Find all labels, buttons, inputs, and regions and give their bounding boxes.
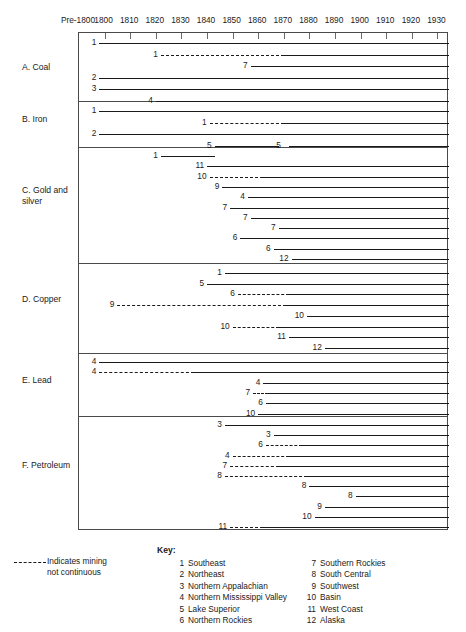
bar-segment-solid (99, 43, 449, 44)
chart-page: Pre-180018001810182018301840185018601870… (0, 0, 466, 632)
bar-segment-dashed (225, 476, 307, 477)
region-number-label: 8 (217, 470, 225, 480)
timeline-bar-row[interactable]: 12 (79, 254, 449, 264)
timeline-bar-row[interactable]: 9 (79, 300, 449, 310)
timeline-bar-row[interactable]: 7 (79, 213, 449, 223)
region-number-label: 7 (271, 222, 279, 232)
timeline-bar-row[interactable]: 8 (79, 471, 449, 481)
bar-segment-solid (99, 362, 449, 363)
timeline-bar-row[interactable]: 7 (79, 223, 449, 233)
axis-tick-label: 1810 (120, 15, 138, 26)
axis-tick-label: 1820 (146, 15, 164, 26)
timeline-bar-row[interactable]: 2 (79, 73, 449, 83)
timeline-bar-row[interactable]: 4 (79, 192, 449, 202)
timeline-bar-row[interactable]: 55 (79, 141, 449, 151)
timeline-bar-row[interactable]: 3 (79, 420, 449, 430)
key-item-label: West Coast (320, 604, 363, 614)
key-item-label: Lake Superior (188, 604, 240, 614)
timeline-bar-row[interactable]: 4 (79, 367, 449, 377)
timeline-bar-row[interactable]: 6 (79, 289, 449, 299)
timeline-bar-row[interactable]: 6 (79, 233, 449, 243)
bar-segment-solid (315, 517, 449, 518)
key-item-number: 6 (171, 615, 184, 626)
region-number-label: 5 (207, 140, 215, 150)
timeline-bar-row[interactable]: 8 (79, 481, 449, 491)
timeline-bar-row[interactable]: 10 (79, 322, 449, 332)
timeline-bar-row[interactable]: 3 (79, 84, 449, 94)
timeline-bar-row[interactable]: 9 (79, 502, 449, 512)
timeline-bar-row[interactable]: 5 (79, 279, 449, 289)
timeline-bar-row[interactable]: 8 (79, 491, 449, 501)
timeline-bar-row[interactable]: 7 (79, 203, 449, 213)
timeline-bar-row[interactable]: 12 (79, 343, 449, 353)
bar-segment-solid (222, 187, 449, 188)
timeline-bar-row[interactable]: 11 (79, 332, 449, 342)
timeline-bar-row[interactable]: 11 (79, 161, 449, 171)
axis-tick-label: 1840 (197, 15, 215, 26)
timeline-bar-row[interactable]: 1 (79, 151, 449, 161)
region-number-label: 6 (258, 397, 266, 407)
timeline-bar-row[interactable]: 4 (79, 96, 449, 106)
region-number-label: 12 (279, 253, 291, 263)
bar-segment-solid (289, 337, 449, 338)
timeline-bar-row[interactable]: 10 (79, 512, 449, 522)
timeline-bar-row[interactable]: 11 (79, 522, 449, 532)
timeline-bar-row[interactable]: 7 (79, 61, 449, 71)
bar-segment-solid (207, 284, 449, 285)
bar-segment-solid (194, 372, 449, 373)
region-number-label: 7 (222, 202, 230, 212)
key-item: 12Alaska (303, 615, 386, 626)
bar-segment-solid (215, 146, 279, 147)
region-number-label: 4 (256, 377, 264, 387)
bar-segment-solid (230, 208, 449, 209)
timeline-bar-row[interactable]: 4 (79, 357, 449, 367)
key-item: 4Northern Mississippi Valley (171, 592, 287, 603)
timeline-bar-row[interactable]: 4 (79, 451, 449, 461)
key-item-label: Southern Rockies (320, 558, 386, 568)
bar-segment-solid (302, 445, 449, 446)
region-number-label: 4 (92, 366, 100, 376)
bar-segment-dashed (161, 55, 284, 56)
timeline-bar-row[interactable]: 4 (79, 378, 449, 388)
bar-segment-solid (225, 273, 449, 274)
key-item-label: Alaska (320, 615, 345, 625)
bar-segment-solid (307, 316, 449, 317)
timeline-bar-row[interactable]: 6 (79, 398, 449, 408)
timeline-bar-row[interactable]: 9 (79, 182, 449, 192)
timeline-bar-row[interactable]: 6 (79, 244, 449, 254)
bar-segment-dashed (233, 327, 279, 328)
timeline-bar-row[interactable]: 1 (79, 38, 449, 48)
bar-segment-solid (248, 197, 449, 198)
timeline-bar-row[interactable]: 2 (79, 129, 449, 139)
key-item-number: 12 (303, 615, 316, 626)
region-number-label: 12 (313, 342, 325, 352)
key-title: Key: (157, 545, 457, 556)
timeline-bar-row[interactable]: 10 (79, 172, 449, 182)
key-item: 7Southern Rockies (303, 558, 386, 569)
timeline-bar-row[interactable]: 1 (79, 268, 449, 278)
key-item-number: 9 (303, 581, 316, 592)
bar-segment-solid (266, 403, 449, 404)
region-number-label: 3 (266, 429, 274, 439)
region-number-label: 10 (246, 408, 258, 418)
region-number-label: 6 (233, 232, 241, 242)
timeline-bar-row[interactable]: 7 (79, 461, 449, 471)
timeline-bar-row[interactable]: 6 (79, 440, 449, 450)
bar-segment-dashed (253, 393, 268, 394)
not-continuous-note-text: Indicates mining not continuous (47, 556, 107, 577)
bar-segment-solid (289, 146, 449, 147)
timeline-bar-row[interactable]: 10 (79, 409, 449, 419)
timeline-bar-row[interactable]: 1 (79, 118, 449, 128)
bar-segment-solid (263, 383, 449, 384)
region-number-label: 4 (240, 191, 248, 201)
region-number-label: 9 (317, 501, 325, 511)
region-number-label: 6 (266, 243, 274, 253)
category-label-coal: A. Coal (22, 62, 50, 73)
key-item: 6Northern Rockies (171, 615, 287, 626)
timeline-bar-row[interactable]: 1 (79, 106, 449, 116)
timeline-bar-row[interactable]: 1 (79, 50, 449, 60)
bar-segment-solid (156, 101, 449, 102)
axis-tick-label: 1920 (402, 15, 420, 26)
region-number-label: 11 (195, 160, 207, 170)
timeline-bar-row[interactable]: 10 (79, 311, 449, 321)
